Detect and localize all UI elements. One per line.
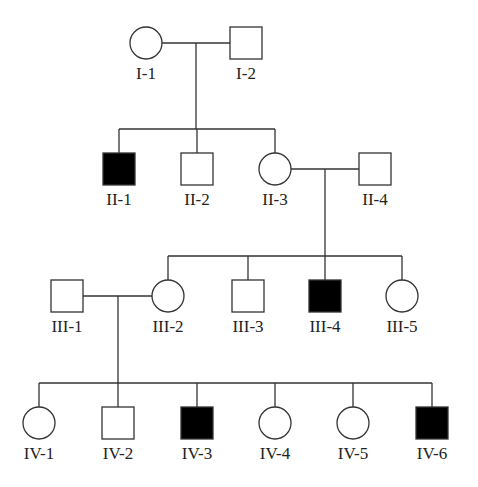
- affected-male-square-III-4: [309, 280, 341, 312]
- unaffected-female-circle-IV-1: [23, 407, 55, 439]
- unaffected-female-circle-III-5: [386, 280, 418, 312]
- individual-label: IV-6: [417, 444, 448, 463]
- unaffected-male-square-II-2: [181, 153, 213, 185]
- unaffected-female-circle-IV-4: [259, 407, 291, 439]
- unaffected-male-square-III-3: [232, 280, 264, 312]
- individual-label: III-4: [309, 317, 341, 336]
- individual-label: II-1: [106, 190, 131, 209]
- individual-label: IV-4: [260, 444, 291, 463]
- individual-label: IV-5: [338, 444, 369, 463]
- unaffected-female-circle-II-3: [259, 153, 291, 185]
- individual-label: IV-3: [182, 444, 213, 463]
- unaffected-male-square-III-1: [51, 280, 83, 312]
- pedigree-chart: I-1I-2II-1II-2II-3II-4III-1III-2III-3III…: [0, 0, 478, 487]
- individual-label: I-1: [136, 64, 156, 83]
- affected-male-square-II-1: [103, 153, 135, 185]
- individual-label: II-2: [184, 190, 209, 209]
- individual-label: III-3: [232, 317, 263, 336]
- unaffected-male-square-IV-2: [102, 407, 134, 439]
- unaffected-male-square-I-2: [230, 27, 262, 59]
- unaffected-male-square-II-4: [359, 153, 391, 185]
- individual-label: II-3: [262, 190, 287, 209]
- affected-male-square-IV-6: [416, 407, 448, 439]
- unaffected-female-circle-IV-5: [337, 407, 369, 439]
- individual-label: II-4: [362, 190, 388, 209]
- individual-label: IV-2: [103, 444, 134, 463]
- unaffected-female-circle-I-1: [130, 27, 162, 59]
- individual-label: III-5: [386, 317, 417, 336]
- unaffected-female-circle-III-2: [152, 280, 184, 312]
- individual-label: III-1: [51, 317, 82, 336]
- individual-label: IV-1: [24, 444, 55, 463]
- individual-label: I-2: [236, 64, 256, 83]
- affected-male-square-IV-3: [181, 407, 213, 439]
- individual-label: III-2: [152, 317, 183, 336]
